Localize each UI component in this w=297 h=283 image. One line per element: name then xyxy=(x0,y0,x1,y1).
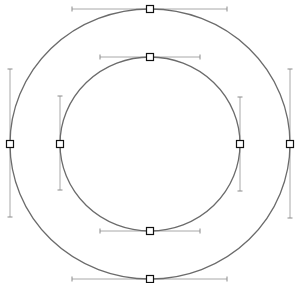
bezier-handles-layer xyxy=(8,7,293,282)
inner-ellipse-top-anchor-point[interactable] xyxy=(147,54,154,61)
vector-canvas[interactable] xyxy=(0,0,297,283)
anchor-points-layer xyxy=(7,6,294,283)
inner-ellipse-right-anchor-point[interactable] xyxy=(237,141,244,148)
inner-ellipse-bottom-anchor-point[interactable] xyxy=(147,228,154,235)
inner-ellipse-left-anchor-point[interactable] xyxy=(57,141,64,148)
outer-ellipse-right-anchor-point[interactable] xyxy=(287,141,294,148)
paths-layer xyxy=(10,9,290,279)
outer-ellipse-bottom-anchor-point[interactable] xyxy=(147,276,154,283)
outer-ellipse-path[interactable] xyxy=(10,9,290,279)
outer-ellipse-left-anchor-point[interactable] xyxy=(7,141,14,148)
inner-ellipse-path[interactable] xyxy=(60,57,240,231)
outer-ellipse-top-anchor-point[interactable] xyxy=(147,6,154,13)
drawing-surface[interactable] xyxy=(0,0,297,283)
